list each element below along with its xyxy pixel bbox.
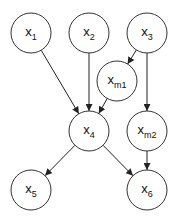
node-xm1: xm1 — [97, 61, 137, 101]
node-x4: x4 — [69, 111, 109, 151]
nodes-group: x1x2x3xm1x4xm2x5x6 — [11, 13, 167, 210]
node-x2: x2 — [69, 13, 109, 53]
edge-x4-to-x5 — [45, 145, 75, 175]
node-x1: x1 — [11, 13, 51, 53]
edge-x4-to-x6 — [103, 145, 133, 175]
dag-diagram: x1x2x3xm1x4xm2x5x6 — [0, 0, 178, 224]
node-xm2: xm2 — [127, 111, 167, 151]
node-x5: x5 — [11, 170, 51, 210]
node-x6: x6 — [127, 170, 167, 210]
edge-x1-to-x4 — [41, 50, 79, 114]
edge-x3-to-xm1 — [128, 50, 137, 64]
edge-xm1-to-x4 — [99, 98, 107, 113]
node-x3: x3 — [127, 13, 167, 53]
